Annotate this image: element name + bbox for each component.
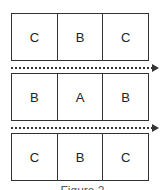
dotted-line [11, 67, 153, 69]
figure-caption: Figure 2 [0, 184, 165, 190]
row-3: C B C [11, 133, 149, 181]
cell: B [103, 74, 148, 120]
row-2: B A B [11, 73, 149, 121]
cell: B [58, 134, 104, 180]
dotted-arrow-2 [11, 125, 159, 131]
dotted-arrow-1 [11, 65, 159, 71]
cell: B [58, 14, 104, 60]
row-1: C B C [11, 13, 149, 61]
arrowhead-icon [152, 124, 159, 132]
cell: A [58, 74, 104, 120]
dotted-line [11, 127, 153, 129]
cell: C [12, 14, 58, 60]
cell: C [103, 134, 148, 180]
cell: C [103, 14, 148, 60]
cell: B [12, 74, 58, 120]
arrowhead-icon [152, 64, 159, 72]
cell: C [12, 134, 58, 180]
